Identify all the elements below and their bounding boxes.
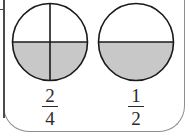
fraction-denominator: 2 bbox=[128, 107, 144, 128]
circle-quarters-graphic bbox=[11, 2, 89, 82]
fraction-denominator: 4 bbox=[42, 107, 58, 128]
half-bottom-shaded bbox=[99, 42, 174, 80]
circle-halves-graphic bbox=[97, 2, 175, 82]
fraction-numerator: 1 bbox=[128, 86, 144, 107]
fraction-notation: 1 2 bbox=[128, 86, 144, 128]
fraction-label-one-half: 1 2 bbox=[97, 86, 175, 129]
figure-row: 2 4 1 2 bbox=[0, 0, 189, 136]
half-top-unshaded bbox=[99, 4, 174, 43]
fraction-label-two-fourths: 2 4 bbox=[11, 86, 89, 129]
fraction-circle-one-half bbox=[97, 2, 175, 82]
fraction-circles-figure: 2 4 1 2 bbox=[0, 0, 189, 136]
fraction-circle-two-fourths bbox=[11, 2, 89, 82]
fraction-numerator: 2 bbox=[42, 86, 58, 107]
fraction-notation: 2 4 bbox=[42, 86, 58, 128]
